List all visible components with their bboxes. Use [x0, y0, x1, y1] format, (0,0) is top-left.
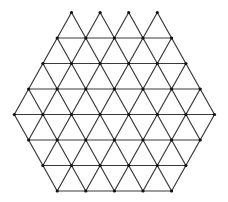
diagonal-edge [29, 115, 43, 141]
diagonal-edge [143, 115, 157, 141]
diagonal-edge [43, 64, 57, 90]
lattice-node [56, 36, 59, 39]
diagonal-edge [143, 166, 157, 192]
lattice-node [170, 36, 173, 39]
diagonal-edge [157, 89, 171, 115]
lattice-node [184, 164, 187, 167]
diagonal-edge [172, 64, 186, 90]
diagonal-edge [43, 140, 57, 166]
diagonal-edge [57, 64, 71, 90]
lattice-node [13, 113, 16, 116]
diagonal-edge [86, 140, 100, 166]
diagonal-edge [172, 89, 186, 115]
diagonal-edge [129, 89, 143, 115]
lattice-node [99, 62, 102, 65]
lattice-node [113, 36, 116, 39]
diagonal-edge [114, 140, 128, 166]
diagonal-edge [43, 38, 57, 64]
lattice-node [70, 164, 73, 167]
lattice-node [127, 11, 130, 14]
diagonal-edge [129, 140, 143, 166]
diagonal-edge [72, 89, 86, 115]
lattice-node [199, 138, 202, 141]
diagonal-edge [86, 13, 100, 39]
lattice-node [70, 113, 73, 116]
diagonal-edge [172, 115, 186, 141]
lattice-node [113, 189, 116, 192]
diagonal-edge [72, 140, 86, 166]
diagonal-edge [200, 115, 214, 141]
lattice-node [84, 36, 87, 39]
diagonal-edge [72, 166, 86, 192]
diagonal-edge [86, 115, 100, 141]
lattice-node [113, 138, 116, 141]
diagonal-edge [157, 115, 171, 141]
lattice-node [127, 164, 130, 167]
lattice-node [113, 87, 116, 90]
lattice-node [156, 164, 159, 167]
diagonal-edge [157, 140, 171, 166]
diagonal-edge [29, 140, 43, 166]
diagonal-edge [57, 13, 71, 39]
lattice-node [70, 62, 73, 65]
diagonal-edge [100, 89, 114, 115]
diagonal-edge [57, 89, 71, 115]
lattice-node [127, 113, 130, 116]
lattice-node [141, 138, 144, 141]
diagonal-edge [100, 140, 114, 166]
diagonal-edge [172, 166, 186, 192]
lattice-node [184, 113, 187, 116]
diagonal-edge [200, 89, 214, 115]
diagonal-edge [57, 115, 71, 141]
diagonal-edge [143, 64, 157, 90]
lattice-node [27, 87, 30, 90]
diagonal-edge [43, 115, 57, 141]
lattice-node [213, 113, 216, 116]
lattice-node [99, 113, 102, 116]
diagonal-edge [43, 166, 57, 192]
diagonal-edge [100, 64, 114, 90]
lattice-node [41, 62, 44, 65]
diagonal-edge [172, 38, 186, 64]
lattice-node [141, 36, 144, 39]
diagonal-edge [157, 13, 171, 39]
diagonal-edge [114, 38, 128, 64]
diagonal-edge [186, 115, 200, 141]
diagonal-edge [157, 166, 171, 192]
diagonal-edge [157, 64, 171, 90]
diagonal-edge [29, 64, 43, 90]
diagonal-edge [57, 166, 71, 192]
lattice-node [156, 62, 159, 65]
diagonal-edge [57, 38, 71, 64]
diagonal-edge [129, 38, 143, 64]
diagonal-edge [114, 166, 128, 192]
diagonal-edge [143, 38, 157, 64]
diagonal-edge [114, 13, 128, 39]
lattice-node [99, 164, 102, 167]
diagonal-edge [100, 38, 114, 64]
diagonal-edge [72, 115, 86, 141]
lattice-node [199, 87, 202, 90]
lattice-node [84, 189, 87, 192]
diagonal-edge [129, 166, 143, 192]
diagonal-edge [143, 140, 157, 166]
lattice-node [184, 62, 187, 65]
lattice-node [84, 138, 87, 141]
lattice-node [27, 138, 30, 141]
diagonal-edge [172, 140, 186, 166]
diagonal-edge [186, 64, 200, 90]
diagonal-edge [143, 13, 157, 39]
lattice-node [127, 62, 130, 65]
diagonal-edge [29, 89, 43, 115]
diagonal-edge [72, 64, 86, 90]
diagonal-edge [114, 115, 128, 141]
diagonal-edge [114, 64, 128, 90]
diagonal-edge [129, 64, 143, 90]
lattice-node [170, 138, 173, 141]
diagonal-edge [86, 64, 100, 90]
diagonal-edge [100, 115, 114, 141]
lattice-node [41, 164, 44, 167]
diagonal-edge [129, 115, 143, 141]
lattice-node [156, 113, 159, 116]
diagonal-edge [86, 38, 100, 64]
